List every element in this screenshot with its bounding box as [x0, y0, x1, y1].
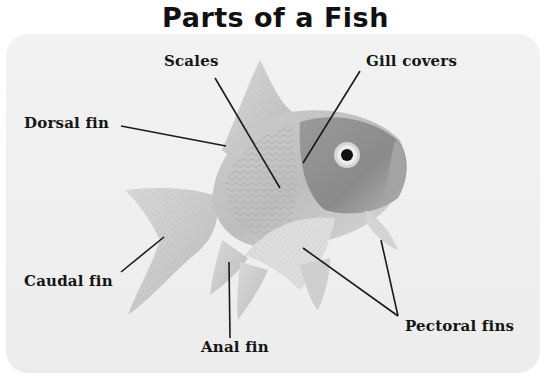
- dorsal-fin-leader: [121, 126, 226, 146]
- label-scales: Scales: [164, 52, 219, 70]
- label-dorsal-fin: Dorsal fin: [24, 114, 109, 132]
- label-pectoral-fins: Pectoral fins: [405, 317, 514, 335]
- anal-fin-leader: [229, 262, 230, 338]
- label-gill-covers: Gill covers: [366, 52, 457, 70]
- label-anal-fin: Anal fin: [201, 338, 269, 356]
- caudal-fin-shape: [125, 188, 217, 315]
- label-caudal-fin: Caudal fin: [24, 272, 113, 290]
- fish-eye: [334, 142, 360, 168]
- pectoral-fin-leader-right: [381, 240, 398, 316]
